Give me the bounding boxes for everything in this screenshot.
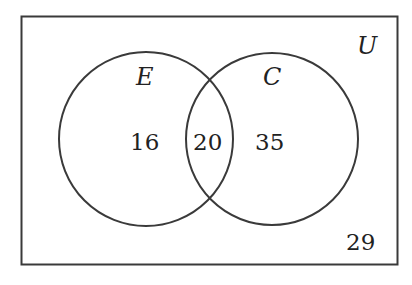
venn-diagram: U E C 16 20 35 29 [0,0,412,285]
set-c-label: C [263,63,281,91]
region-c-only-value: 35 [255,129,284,155]
set-e-label: E [135,63,154,91]
region-neither-value: 29 [346,229,375,255]
universe-label: U [357,32,378,60]
region-e-only-value: 16 [130,129,159,155]
region-intersection-value: 20 [193,129,222,155]
